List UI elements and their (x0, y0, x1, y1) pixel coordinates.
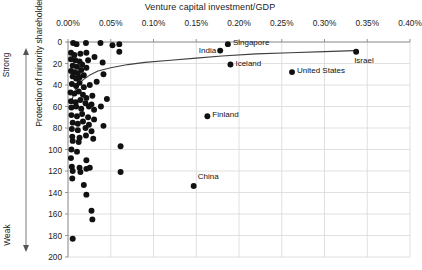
data-point (104, 96, 110, 102)
data-point (85, 114, 91, 120)
point-label-india: India (199, 46, 216, 55)
y-tick-label: 120 (36, 166, 62, 176)
data-point (87, 165, 93, 171)
data-point (69, 126, 75, 132)
data-point (83, 95, 89, 101)
data-point (68, 155, 74, 161)
point-label-iceland: Iceland (235, 59, 261, 68)
data-point (70, 120, 76, 126)
data-point (74, 113, 80, 119)
data-point (101, 123, 107, 129)
data-point (77, 80, 83, 86)
point-label-china: China (198, 172, 219, 181)
data-point (68, 147, 74, 153)
data-point (91, 107, 97, 113)
data-point (90, 136, 96, 142)
data-point (73, 104, 79, 110)
x-tick-label: 0.15% (184, 18, 208, 28)
y-tick-label: 160 (36, 209, 62, 219)
data-point (83, 157, 89, 163)
point-label-united-states: United States (297, 66, 345, 75)
trendline (71, 51, 354, 104)
data-point (118, 143, 124, 149)
data-point (83, 65, 89, 71)
data-point (89, 128, 95, 134)
data-point (69, 176, 75, 182)
data-point (70, 138, 76, 144)
y-tick-label: 100 (36, 145, 62, 155)
data-point (89, 216, 95, 222)
data-point (83, 133, 89, 139)
y-tick-label: 40 (36, 80, 62, 90)
data-point (74, 41, 80, 47)
point-label-israel: Israel (354, 56, 374, 65)
data-point (89, 93, 95, 99)
y-tick-label: 180 (36, 231, 62, 241)
data-point (75, 121, 81, 127)
point-label-finland: Finland (212, 110, 238, 119)
y-tick-label: 200 (36, 252, 62, 262)
data-point (87, 82, 93, 88)
x-tick-label: 0.20% (227, 18, 251, 28)
data-point (75, 127, 81, 133)
data-point (91, 116, 97, 122)
data-point (70, 168, 76, 174)
data-point (98, 104, 104, 110)
data-point (77, 169, 83, 175)
data-point (76, 139, 82, 145)
data-point (94, 79, 100, 85)
data-point (79, 111, 85, 117)
data-point (109, 42, 115, 48)
x-tick-label: 0.05% (99, 18, 123, 28)
data-point (77, 51, 83, 57)
data-point (68, 112, 74, 118)
data-point (86, 104, 92, 110)
x-tick-label: 0.35% (355, 18, 379, 28)
data-point (289, 69, 295, 75)
data-point (118, 169, 124, 175)
data-point (353, 49, 359, 55)
y-tick-label: 60 (36, 102, 62, 112)
x-tick-label: 0.40% (398, 18, 422, 28)
arrow-head-up-icon (23, 48, 29, 55)
data-point (116, 49, 122, 55)
data-point (78, 106, 84, 112)
data-point (83, 125, 89, 131)
data-point (80, 119, 86, 125)
y-tick-label: 80 (36, 123, 62, 133)
point-label-singapore: Singapore (233, 38, 269, 47)
data-point (227, 62, 233, 68)
data-point (81, 182, 87, 188)
data-point (217, 48, 223, 54)
x-tick-label: 0.25% (270, 18, 294, 28)
data-point (78, 67, 84, 73)
data-point (225, 41, 231, 47)
y-tick-label: 20 (36, 59, 62, 69)
data-point (81, 72, 87, 78)
x-tick-label: 0.10% (142, 18, 166, 28)
data-point (83, 50, 89, 56)
data-point (70, 236, 76, 242)
data-point (204, 113, 210, 119)
y-tick-label: 0 (36, 37, 62, 47)
x-tick-label: 0.30% (313, 18, 337, 28)
data-point (74, 149, 80, 155)
y-tick-label: 140 (36, 188, 62, 198)
data-point (191, 183, 197, 189)
data-point (100, 59, 106, 65)
data-point (83, 40, 89, 46)
x-tick-label: 0.00% (56, 18, 80, 28)
arrow-head-down-icon (23, 245, 29, 252)
data-point (98, 40, 104, 46)
data-point (77, 97, 83, 103)
data-point (89, 208, 95, 214)
data-point (116, 41, 122, 47)
data-point (92, 54, 98, 60)
data-point (85, 57, 91, 63)
data-point (83, 192, 89, 198)
data-point (81, 84, 87, 90)
data-point (101, 71, 107, 77)
